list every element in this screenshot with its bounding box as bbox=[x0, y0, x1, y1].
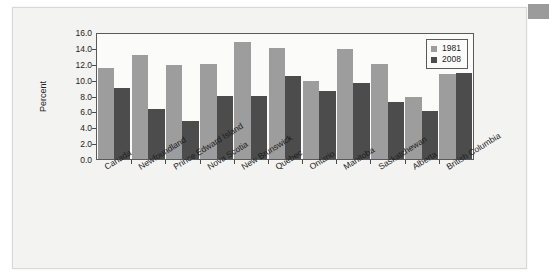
y-axis-tick-label: 10.0 bbox=[66, 76, 92, 85]
x-axis-tick-labels: CanadaNewfoundlandPrince Edward IslandNo… bbox=[12, 160, 525, 260]
bar-group bbox=[302, 34, 336, 159]
y-axis-tick-label: 8.0 bbox=[66, 92, 92, 101]
y-axis-tick-label: 16.0 bbox=[66, 29, 92, 38]
bar-group bbox=[131, 34, 165, 159]
corner-tab-decoration bbox=[528, 4, 549, 19]
chart-legend: 1981 2008 bbox=[426, 39, 468, 69]
bar-1981 bbox=[337, 49, 353, 159]
bar-group bbox=[234, 34, 268, 159]
bar-group bbox=[370, 34, 404, 159]
y-axis-tick-label: 14.0 bbox=[66, 45, 92, 54]
bar-1981 bbox=[98, 68, 114, 159]
bar-1981 bbox=[303, 81, 319, 159]
bar-chart: Percent 16.014.012.010.08.06.04.02.00.0 … bbox=[12, 7, 525, 267]
legend-label-1981: 1981 bbox=[442, 44, 461, 53]
legend-item-2008: 2008 bbox=[431, 54, 461, 65]
bar-group bbox=[97, 34, 131, 159]
y-axis-tick-labels: 16.014.012.010.08.06.04.02.00.0 bbox=[60, 33, 92, 160]
legend-label-2008: 2008 bbox=[442, 55, 461, 64]
y-axis-title: Percent bbox=[36, 33, 50, 160]
legend-item-1981: 1981 bbox=[431, 43, 461, 54]
y-axis-tick-label: 4.0 bbox=[66, 124, 92, 133]
bar-1981 bbox=[439, 74, 455, 159]
legend-swatch-icon-1981 bbox=[431, 46, 437, 52]
y-axis-tick-label: 2.0 bbox=[66, 140, 92, 149]
legend-swatch-icon-2008 bbox=[431, 57, 437, 63]
y-axis-tick-label: 6.0 bbox=[66, 108, 92, 117]
bar-1981 bbox=[132, 55, 148, 159]
bar-2008 bbox=[319, 91, 335, 159]
y-axis-tick-label: 12.0 bbox=[66, 61, 92, 70]
bar-group bbox=[336, 34, 370, 159]
screenshot-root: Percent 16.014.012.010.08.06.04.02.00.0 … bbox=[0, 0, 549, 279]
bar-1981 bbox=[371, 64, 387, 159]
